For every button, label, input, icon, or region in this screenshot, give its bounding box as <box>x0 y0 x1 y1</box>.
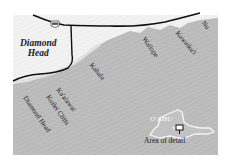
label-area-of-detail: Area of detail <box>144 137 185 145</box>
map-graphic <box>0 0 229 166</box>
label-diamond-head: Diamond Head <box>20 38 56 59</box>
label-diamond-head-line2: Head <box>20 48 56 58</box>
label-diamond-head-line1: Diamond <box>20 38 56 48</box>
highway-shield-icon <box>51 21 59 28</box>
map: Diamond Head Nu Kawaiku'i Wailupe Kahala… <box>0 0 229 166</box>
label-oahu: O'AHU <box>150 116 172 123</box>
